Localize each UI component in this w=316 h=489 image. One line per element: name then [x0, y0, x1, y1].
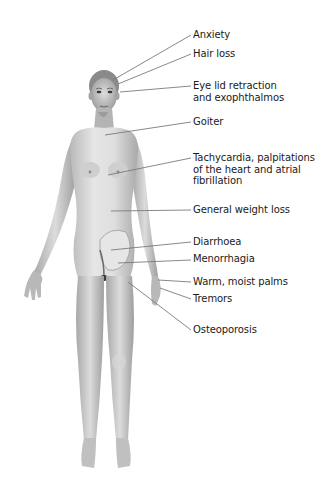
label-menorrhagia: Menorrhagia — [193, 253, 255, 265]
label-eye-lid-retraction: Eye lid retraction and exophthalmos — [193, 80, 284, 103]
leader-line-hair-loss — [118, 54, 191, 84]
leader-line-tremors — [160, 288, 191, 299]
neck — [94, 108, 114, 130]
leader-line-warm-palms — [158, 280, 191, 282]
leader-line-eye-lid — [120, 86, 191, 92]
right-foot — [81, 438, 96, 468]
label-hair-loss: Hair loss — [193, 48, 235, 60]
label-diarrhoea: Diarrhoea — [193, 236, 241, 248]
label-anxiety: Anxiety — [193, 29, 230, 41]
left-foot — [116, 438, 131, 468]
label-osteoporosis: Osteoporosis — [193, 324, 257, 336]
label-warm-moist-palms: Warm, moist palms — [193, 276, 288, 288]
label-goiter: Goiter — [193, 116, 223, 128]
label-tremors: Tremors — [193, 293, 232, 305]
right-arm — [34, 136, 76, 276]
right-hand — [24, 270, 42, 300]
right-leg — [76, 276, 104, 440]
label-weight-loss: General weight loss — [193, 204, 290, 216]
leader-line-anxiety — [113, 35, 191, 80]
body-figure-illustration — [0, 0, 316, 489]
label-tachycardia: Tachycardia, palpitations of the heart a… — [193, 152, 315, 187]
thyroid-symptoms-diagram: Anxiety Hair loss Eye lid retraction and… — [0, 0, 316, 489]
